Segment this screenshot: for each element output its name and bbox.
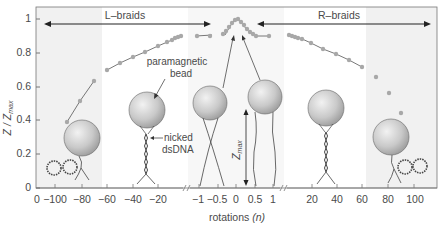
svg-text:1: 1 [25, 12, 31, 24]
svg-text:0: 0 [34, 193, 40, 205]
svg-text:−0.5: −0.5 [207, 193, 228, 205]
svg-text:1: 1 [270, 193, 276, 205]
svg-text:0.8: 0.8 [16, 46, 31, 58]
svg-text:−20: −20 [149, 193, 167, 205]
bead-twisted-right [308, 90, 344, 184]
dna-annotation: nicked [164, 132, 193, 143]
svg-text:−60: −60 [98, 193, 116, 205]
l-braids-label: L–braids [105, 9, 145, 21]
chart: 0 0.2 0.4 0.6 0.8 1 Z / Zmax 0 −100 −80 … [0, 0, 438, 229]
shade-left [36, 7, 102, 188]
svg-text:0.2: 0.2 [16, 147, 31, 159]
svg-text:0: 0 [25, 181, 31, 193]
svg-text:0.6: 0.6 [16, 80, 31, 92]
svg-text:−100: −100 [43, 193, 67, 205]
svg-text:Z / Zmax: Z / Zmax [1, 100, 14, 136]
svg-text:80: 80 [382, 193, 394, 205]
svg-text:40: 40 [331, 193, 343, 205]
x-axis-label: rotations (n) [209, 211, 265, 223]
shade-right [366, 7, 437, 188]
svg-text:100: 100 [406, 193, 424, 205]
bead-annotation-2: bead [170, 68, 192, 79]
svg-text:0: 0 [233, 193, 239, 205]
svg-text:60: 60 [356, 193, 368, 205]
svg-text:0.5: 0.5 [248, 193, 263, 205]
dna-annotation-2: dsDNA [162, 144, 194, 155]
svg-text:20: 20 [306, 193, 318, 205]
svg-text:−80: −80 [73, 193, 91, 205]
r-braids-label: R–braids [318, 9, 360, 21]
x-tick-labels: 0 −100 −80 −60 −40 −20 −1 −0.5 0 0.5 1 2… [34, 193, 424, 205]
svg-text:0.4: 0.4 [16, 113, 31, 125]
svg-text:−40: −40 [124, 193, 142, 205]
svg-text:−1: −1 [192, 193, 204, 205]
y-axis-label: Z / Zmax [1, 100, 14, 136]
bead-annotation: paramagnetic [147, 56, 208, 67]
